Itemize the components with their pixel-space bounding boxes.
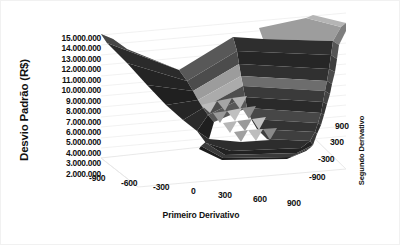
x-tick: 300 <box>218 190 232 200</box>
y-tick: 10.000.000 <box>37 85 101 95</box>
x-tick: 600 <box>253 194 267 204</box>
y-tick: 15.000.000 <box>37 33 101 43</box>
x-tick: -900 <box>89 173 105 183</box>
y-axis-title: Desvio Padrão (R$) <box>18 40 30 180</box>
y-tick: 13.000.000 <box>37 54 101 64</box>
z-axis-title: Segundo Derivativo <box>357 101 366 201</box>
y-tick: 6.000.000 <box>37 127 101 137</box>
x-tick: 0 <box>191 186 196 196</box>
y-tick: 3.000.000 <box>37 158 101 168</box>
y-tick: 4.000.000 <box>37 148 101 158</box>
x-axis-title: Primeiro Derivativo <box>121 210 281 220</box>
y-tick: 14.000.000 <box>37 43 101 53</box>
x-tick: 900 <box>287 198 301 208</box>
x-tick: -300 <box>153 182 169 192</box>
z-tick: -900 <box>309 172 325 182</box>
y-tick: 5.000.000 <box>37 137 101 147</box>
surface-chart: Desvio Padrão (R$) 15.000.000 14.000.000… <box>0 0 400 245</box>
z-tick: 300 <box>330 137 344 147</box>
surface-mesh <box>101 15 346 160</box>
y-axis-tick-labels: 15.000.000 14.000.000 13.000.000 12.000.… <box>37 33 101 179</box>
x-tick: -600 <box>121 178 137 188</box>
z-tick: 900 <box>335 121 349 131</box>
z-tick: -300 <box>318 154 334 164</box>
y-tick: 12.000.000 <box>37 64 101 74</box>
y-tick: 11.000.000 <box>37 75 101 85</box>
y-tick: 9.000.000 <box>37 96 101 106</box>
y-tick: 8.000.000 <box>37 106 101 116</box>
y-tick: 7.000.000 <box>37 117 101 127</box>
